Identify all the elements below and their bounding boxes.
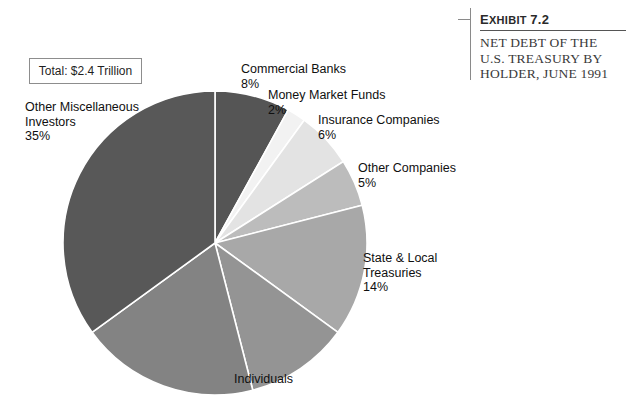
exhibit-top-rule <box>458 19 470 20</box>
exhibit-title-line-2: U.S. TREASURY BY <box>480 51 626 67</box>
exhibit-divider-rule <box>480 30 626 31</box>
label-state-pct: 14% <box>363 280 437 295</box>
label-insurance-companies: Insurance Companies 6% <box>318 113 440 142</box>
label-other-miscellaneous-investors: Other Miscellaneous Investors 35% <box>25 100 139 144</box>
label-misc-line-2: Investors <box>25 115 139 130</box>
label-banks-name: Commercial Banks <box>241 62 346 77</box>
exhibit-title-line-1: NET DEBT OF THE <box>480 35 626 51</box>
label-misc-pct: 35% <box>25 129 139 144</box>
label-commercial-banks: Commercial Banks 8% <box>241 62 346 91</box>
total-annotation-box: Total: $2.4 Trillion <box>29 58 142 84</box>
label-othco-name: Other Companies <box>358 161 456 176</box>
exhibit-vertical-rule <box>470 8 471 80</box>
label-insurance-name: Insurance Companies <box>318 113 440 128</box>
exhibit-number: EXHIBIT 7.2 <box>480 12 549 27</box>
total-annotation-text: Total: $2.4 Trillion <box>30 64 141 78</box>
label-individuals: Individuals <box>234 372 293 387</box>
exhibit-title: NET DEBT OF THE U.S. TREASURY BY HOLDER,… <box>480 35 626 82</box>
label-state-line-2: Treasuries <box>363 266 437 281</box>
label-othco-pct: 5% <box>358 176 456 191</box>
exhibit-header: EXHIBIT 7.2 NET DEBT OF THE U.S. TREASUR… <box>470 6 626 82</box>
label-other-companies: Other Companies 5% <box>358 161 456 190</box>
label-state-line-1: State & Local <box>363 251 437 266</box>
label-individuals-name: Individuals <box>234 372 293 387</box>
label-state-local-treasuries: State & Local Treasuries 14% <box>363 251 437 295</box>
label-misc-line-1: Other Miscellaneous <box>25 100 139 115</box>
label-insurance-pct: 6% <box>318 128 440 143</box>
exhibit-title-line-3: HOLDER, JUNE 1991 <box>480 66 626 82</box>
label-mmf-name: Money Market Funds <box>268 88 385 103</box>
